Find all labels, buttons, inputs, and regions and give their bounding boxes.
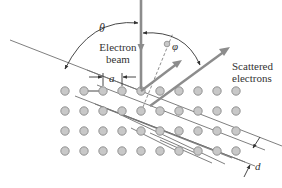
scattered-electron-arrows (141, 47, 230, 106)
atom (137, 107, 145, 115)
atom (99, 87, 107, 95)
scattered-electrons-label: Scattered electrons (232, 60, 282, 84)
atom (99, 147, 107, 155)
atom (232, 127, 240, 135)
scattered-label-line2: electrons (232, 72, 282, 84)
normal-marker-dot (164, 41, 170, 47)
atom (80, 107, 88, 115)
atom (80, 127, 88, 135)
phi-label: φ (172, 40, 178, 52)
atom (156, 107, 164, 115)
atom (118, 107, 126, 115)
atom (61, 107, 69, 115)
atom (232, 87, 240, 95)
atom (232, 107, 240, 115)
atom (137, 147, 145, 155)
atom (137, 127, 145, 135)
plane-spacing-label: d (255, 160, 261, 172)
atom (61, 87, 69, 95)
atom (194, 107, 202, 115)
atom (118, 147, 126, 155)
atom (80, 87, 88, 95)
atom (175, 127, 183, 135)
scattered-label-line1: Scattered (232, 60, 282, 72)
atom (175, 147, 183, 155)
lattice-spacing-label: a (109, 72, 115, 84)
theta-label: θ (99, 22, 105, 34)
atom (232, 147, 240, 155)
atom-lattice (61, 87, 240, 155)
atom (194, 147, 202, 155)
electron-beam-label-line2: beam (92, 53, 144, 65)
atom (156, 147, 164, 155)
atom (99, 107, 107, 115)
atom (213, 127, 221, 135)
atom (213, 147, 221, 155)
electron-beam-label: Electron beam (92, 41, 144, 65)
electron-beam-label-line1: Electron (92, 41, 144, 53)
atom (213, 107, 221, 115)
atom (194, 87, 202, 95)
atom (118, 127, 126, 135)
atom (156, 127, 164, 135)
atom (80, 147, 88, 155)
electron-diffraction-diagram (0, 0, 282, 188)
atom (118, 87, 126, 95)
atom (61, 147, 69, 155)
atom (194, 127, 202, 135)
atom (156, 87, 164, 95)
atom (61, 127, 69, 135)
atom (213, 87, 221, 95)
atom (99, 127, 107, 135)
atom (175, 107, 183, 115)
